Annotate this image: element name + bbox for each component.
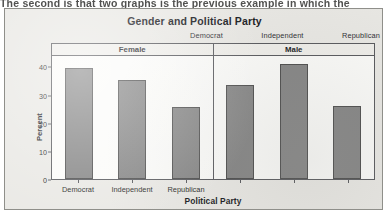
chart-title: Gender and Political Party [5,15,383,27]
plot-area [51,56,375,180]
bar-female-republican [172,107,200,179]
top-category-label-republican: Republican [342,31,380,40]
bar-male-republican [333,106,361,179]
y-tick-label-10: 10 [39,147,47,156]
x-tick-mark-female-republican [186,180,187,183]
x-tick-mark-male-democrat [240,180,241,183]
x-tick-label-republican: Republican [168,185,205,194]
y-tick-label-0: 0 [43,176,47,185]
x-tick-label-democrat: Democrat [62,185,94,194]
x-tick-label-independent: Independent [111,185,152,194]
top-category-label-democrat: Democrat [190,31,223,40]
bar-female-democrat [65,68,93,179]
x-tick-mark-female-democrat [78,180,79,183]
x-tick-mark-male-republican [348,180,349,183]
bar-male-independent [280,64,308,180]
panel-female [52,56,213,179]
bar-female-independent [118,80,146,180]
y-tick-label-20: 20 [39,119,47,128]
x-axis-title: Political Party [51,196,375,206]
y-axis: Percent 010203040 [29,56,51,180]
panel-male [213,56,375,179]
bar-male-democrat [226,85,254,179]
x-tick-mark-female-independent [132,180,133,183]
top-category-labels: Democrat Independent Republican [190,31,380,40]
panel-header-band: Female Male [51,43,375,56]
panel-header-female: Female [52,44,213,55]
top-category-label-independent: Independent [261,31,303,40]
clipped-page-text: The second is that two graphs is the pre… [0,0,387,8]
chart-figure: Gender and Political Party Democrat Inde… [4,8,383,210]
x-tick-mark-male-independent [294,180,295,183]
y-tick-label-40: 40 [39,63,47,72]
x-axis: Political Party DemocratIndependentRepub… [51,180,375,210]
y-tick-label-30: 30 [39,91,47,100]
panel-header-male: Male [213,44,375,55]
